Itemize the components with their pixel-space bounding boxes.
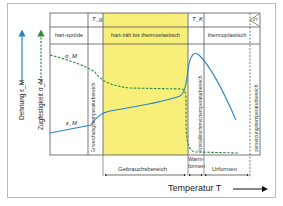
erweichung-label: Erweichungstemperaturbereich xyxy=(91,83,96,152)
kristallit-label: Kristallitschmelztemperaturbereich xyxy=(198,76,203,152)
sigma-curve-label: σ_M xyxy=(65,53,77,59)
warmformen-label-1: Warm- xyxy=(188,157,204,163)
tg-label: T_g xyxy=(92,16,102,22)
tk-label: T_K xyxy=(192,16,203,22)
warmformen-label-2: formen xyxy=(188,164,205,170)
hart-zaeh-label: hart-zäh bis thermoelastisch xyxy=(103,33,188,39)
zt-label: ZT xyxy=(253,17,258,22)
thermoplastisch-label: thermoplastisch xyxy=(204,33,250,39)
strength-axis-label: Zugfestigkeit σ_M xyxy=(37,78,44,130)
epsilon-curve-label: ε_M xyxy=(66,120,77,126)
zersetzung-label: zersetzungstemperaturbereich xyxy=(254,84,259,152)
urformen-label: Urformen xyxy=(212,166,237,172)
x-axis-title: Temperatur T xyxy=(168,183,221,193)
strain-axis-label: Dehnung ε_M xyxy=(18,80,25,120)
gebrauchsbereich-label: Gebrauchsbereich xyxy=(118,166,167,172)
hart-sproede-label: hart-spröde xyxy=(50,33,88,39)
